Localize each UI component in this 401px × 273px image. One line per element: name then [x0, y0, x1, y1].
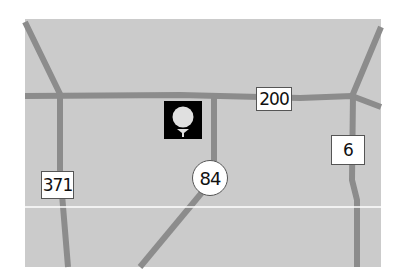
golf-ball-on-tee-icon: [164, 101, 202, 139]
golf-course-marker[interactable]: [164, 101, 202, 139]
map: 200 6 371 84: [0, 0, 401, 273]
map-background: [25, 19, 381, 267]
route-marker-6[interactable]: 6: [331, 135, 365, 165]
route-marker-84[interactable]: 84: [192, 160, 228, 196]
route-marker-200[interactable]: 200: [256, 87, 292, 111]
route-marker-371[interactable]: 371: [41, 171, 74, 199]
